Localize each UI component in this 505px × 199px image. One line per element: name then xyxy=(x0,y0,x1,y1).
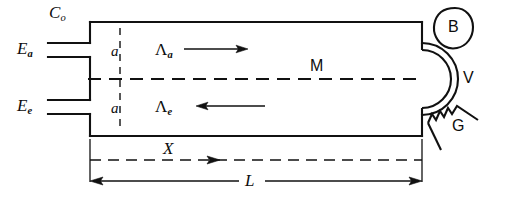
label-lambda-a-base: Λ xyxy=(155,40,167,59)
dome-v-outer-arc xyxy=(422,43,458,115)
figure-canvas: Co Ea Ee a a Λa Λe M B V G X L xyxy=(0,0,505,199)
label-lambda-e-base: Λ xyxy=(155,97,167,116)
label-x: X xyxy=(163,140,173,157)
zigzag-g-left-leg xyxy=(428,123,441,150)
label-l: L xyxy=(245,172,254,189)
inlet-pipe-ee xyxy=(48,100,90,114)
label-e-e: Ee xyxy=(17,97,32,114)
label-v: V xyxy=(463,70,474,86)
label-c-zero-sub: o xyxy=(61,12,66,23)
lambda-e-arrow xyxy=(196,102,265,110)
label-e-a-base: E xyxy=(17,39,27,58)
label-a-lower: a xyxy=(111,101,119,116)
inlet-pipe-ea xyxy=(48,43,90,57)
label-e-a: Ea xyxy=(17,40,33,57)
x-dimension xyxy=(90,139,422,182)
lambda-a-arrow xyxy=(184,45,248,53)
diagram-svg xyxy=(0,0,505,199)
l-dimension xyxy=(90,177,422,185)
dome-v-inner-arc xyxy=(422,50,451,108)
label-lambda-e: Λe xyxy=(155,98,172,115)
label-c-zero-base: C xyxy=(49,3,60,22)
label-c-zero: Co xyxy=(49,4,66,21)
label-e-a-sub: a xyxy=(28,48,33,59)
label-lambda-a-sub: a xyxy=(168,49,173,60)
label-e-e-sub: e xyxy=(28,105,33,116)
label-e-e-base: E xyxy=(17,96,27,115)
label-lambda-e-sub: e xyxy=(168,106,173,117)
label-g: G xyxy=(452,118,464,134)
label-a-upper: a xyxy=(111,44,119,59)
label-m: M xyxy=(310,58,323,74)
label-b: B xyxy=(448,19,459,35)
label-lambda-a: Λa xyxy=(155,41,173,58)
dome-v xyxy=(422,43,458,115)
